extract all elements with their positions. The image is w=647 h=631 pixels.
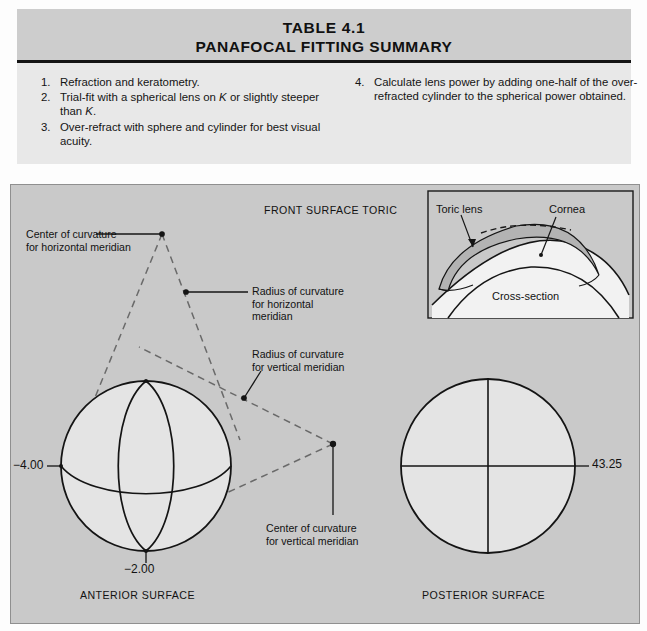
list-item: 4. Calculate lens power by adding one-ha… xyxy=(355,75,645,103)
list-item: 2. Trial-fit with a spherical lens on K … xyxy=(41,90,341,118)
label-cornea: Cornea xyxy=(549,203,585,216)
list-item-number: 4. xyxy=(355,75,365,89)
list-item-text: Trial-fit with a spherical lens on K or … xyxy=(60,91,319,117)
list-item-text: Over-refract with sphere and cylinder fo… xyxy=(60,121,320,147)
value-posterior-power: 43.25 xyxy=(592,458,622,471)
table-4-1: TABLE 4.1 PANAFOCAL FITTING SUMMARY 1. R… xyxy=(17,9,631,161)
list-item-number: 1. xyxy=(41,75,51,89)
list-item: 3. Over-refract with sphere and cylinder… xyxy=(41,120,341,148)
list-item-text: Calculate lens power by adding one-half … xyxy=(374,76,637,102)
value-anterior-horizontal-power: −4.00 xyxy=(13,459,43,472)
list-item-number: 3. xyxy=(41,120,51,134)
table-column-right: 4. Calculate lens power by adding one-ha… xyxy=(355,75,645,104)
table-column-left: 1. Refraction and keratometry. 2. Trial-… xyxy=(41,75,341,149)
label-radius-of-curvature-vertical: Radius of curvature for vertical meridia… xyxy=(252,348,344,373)
caption-posterior-surface: POSTERIOR SURFACE xyxy=(422,589,545,602)
caption-anterior-surface: ANTERIOR SURFACE xyxy=(80,589,195,602)
table-header: TABLE 4.1 PANAFOCAL FITTING SUMMARY xyxy=(17,9,631,57)
page-root: TABLE 4.1 PANAFOCAL FITTING SUMMARY 1. R… xyxy=(0,0,647,631)
list-item: 1. Refraction and keratometry. xyxy=(41,75,341,89)
figure-heading: FRONT SURFACE TORIC xyxy=(264,204,397,217)
label-radius-of-curvature-horizontal: Radius of curvature for horizontal merid… xyxy=(252,285,344,323)
list-item-number: 2. xyxy=(41,90,51,104)
label-toric-lens: Toric lens xyxy=(436,203,482,216)
posterior-surface-sphere xyxy=(401,379,589,553)
anterior-surface-sphere xyxy=(47,379,231,563)
table-body: 1. Refraction and keratometry. 2. Trial-… xyxy=(17,63,631,164)
label-center-of-curvature-horizontal: Center of curvature for horizontal merid… xyxy=(26,228,131,253)
label-center-of-curvature-vertical: Center of curvature for vertical meridia… xyxy=(266,522,358,547)
figure-panel: FRONT SURFACE TORIC Center of curvature … xyxy=(10,184,640,624)
label-cross-section: Cross-section xyxy=(492,290,559,303)
value-anterior-vertical-power: −2.00 xyxy=(124,563,154,576)
table-subtitle: PANAFOCAL FITTING SUMMARY xyxy=(17,37,631,57)
table-title: TABLE 4.1 xyxy=(17,18,631,37)
list-item-text: Refraction and keratometry. xyxy=(60,76,200,88)
